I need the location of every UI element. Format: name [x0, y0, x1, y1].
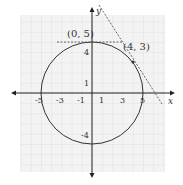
y-tick-label: -4 [81, 131, 89, 140]
x-axis-right-arrow-icon [170, 91, 175, 96]
y-axis-label: y [95, 6, 102, 16]
x-tick-label: 1 [99, 96, 104, 105]
point-label-0-5: (0, 5) [67, 28, 94, 39]
y-axis-top-arrow-icon [90, 7, 95, 12]
point-marker [132, 61, 135, 64]
y-tick-label: 1 [84, 79, 89, 88]
point-label-4-3: (4, 3) [123, 41, 150, 52]
y-axis-bottom-arrow-icon [90, 173, 95, 178]
x-axis-label: x [168, 96, 173, 106]
y-tick-label: 4 [84, 48, 89, 57]
x-tick-label: -3 [56, 96, 64, 105]
x-tick-label: -1 [77, 96, 85, 105]
x-axis-left-arrow-icon [11, 91, 16, 96]
coordinate-plane-diagram: x y -5 -3 -1 1 3 5 4 1 -4 (0, 5) (4, 3) [0, 0, 183, 185]
x-tick-label: 3 [120, 96, 125, 105]
